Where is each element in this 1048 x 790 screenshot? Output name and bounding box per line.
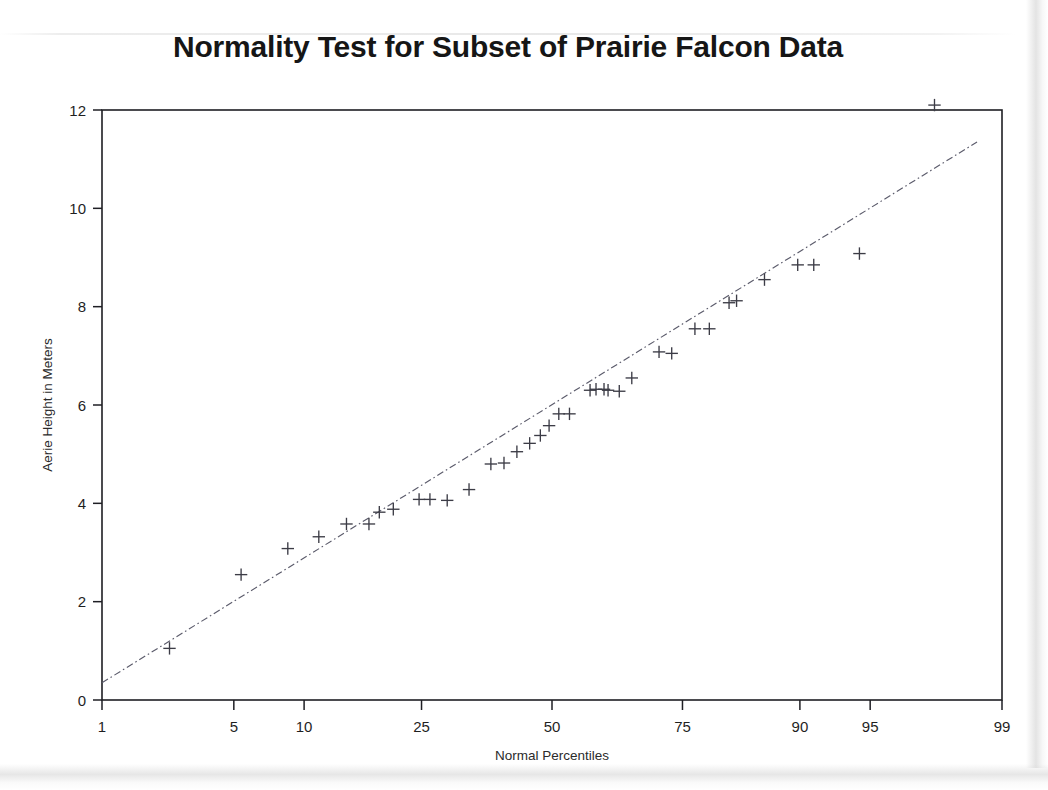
data-point-marker <box>626 372 638 384</box>
y-axis: 024681012Aerie Height in Meters <box>40 102 102 709</box>
data-point-marker <box>563 408 575 420</box>
x-axis-tick-label: 75 <box>674 718 691 735</box>
data-point-marker <box>441 494 453 506</box>
y-axis-title: Aerie Height in Meters <box>40 338 55 472</box>
y-axis-tick-label: 2 <box>78 593 86 610</box>
x-axis: 1510255075909599Normal Percentiles <box>98 700 1011 763</box>
data-point-marker <box>282 542 294 554</box>
data-point-marker <box>424 493 436 505</box>
data-point-marker <box>543 419 555 431</box>
normal-reference-line <box>102 142 977 683</box>
normal-probability-plot: 024681012Aerie Height in Meters151025507… <box>0 0 1048 790</box>
data-point-marker <box>853 247 865 259</box>
x-axis-tick-label: 50 <box>544 718 561 735</box>
data-point-marker <box>584 384 596 396</box>
data-point-marker <box>373 506 385 518</box>
x-axis-tick-label: 99 <box>994 718 1011 735</box>
data-point-marker <box>313 531 325 543</box>
y-axis-tick-label: 4 <box>78 495 86 512</box>
data-point-marker <box>613 385 625 397</box>
data-point-marker <box>235 568 247 580</box>
data-point-marker <box>792 259 804 271</box>
data-point-marker <box>413 493 425 505</box>
data-point-marker <box>653 346 665 358</box>
x-axis-tick-label: 10 <box>296 718 313 735</box>
scanned-page: Normality Test for Subset of Prairie Fal… <box>0 0 1048 790</box>
data-point-marker <box>730 295 742 307</box>
data-point-marker <box>553 408 565 420</box>
data-point-marker <box>758 273 770 285</box>
y-axis-tick-label: 6 <box>78 397 86 414</box>
x-axis-tick-label: 25 <box>413 718 430 735</box>
data-point-marker <box>808 259 820 271</box>
data-point-marker <box>689 323 701 335</box>
data-point-marker <box>485 458 497 470</box>
data-point-marker <box>363 518 375 530</box>
y-axis-tick-label: 12 <box>69 102 86 119</box>
y-axis-tick-label: 8 <box>78 298 86 315</box>
data-point-marker <box>498 457 510 469</box>
data-points <box>163 99 940 655</box>
data-point-marker <box>523 437 535 449</box>
x-axis-tick-label: 1 <box>98 718 106 735</box>
y-axis-tick-label: 10 <box>69 200 86 217</box>
y-axis-tick-label: 0 <box>78 692 86 709</box>
data-point-marker <box>340 518 352 530</box>
x-axis-tick-label: 5 <box>230 718 238 735</box>
x-axis-tick-label: 90 <box>792 718 809 735</box>
data-point-marker <box>534 429 546 441</box>
data-point-marker <box>463 483 475 495</box>
data-point-marker <box>511 446 523 458</box>
data-point-marker <box>703 323 715 335</box>
x-axis-title: Normal Percentiles <box>495 748 609 763</box>
data-point-marker <box>666 347 678 359</box>
x-axis-tick-label: 95 <box>862 718 879 735</box>
